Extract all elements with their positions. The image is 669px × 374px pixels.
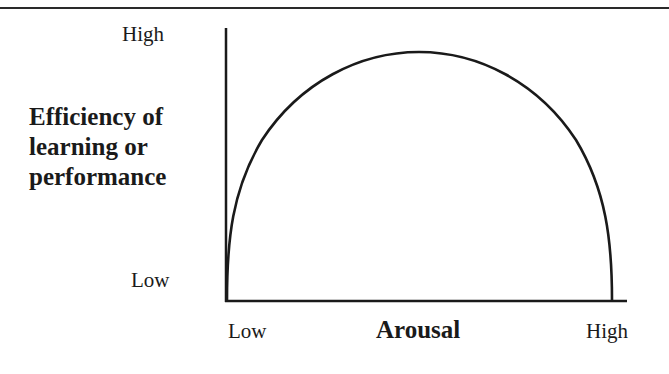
- inverted-u-curve: [227, 52, 612, 300]
- y-tick-low: Low: [131, 268, 170, 293]
- y-tick-high: High: [122, 22, 164, 47]
- y-axis-title: Efficiency of learning or performance: [29, 102, 219, 192]
- x-tick-low: Low: [228, 319, 267, 344]
- y-axis-title-line3: performance: [29, 162, 219, 192]
- x-axis-title: Arousal: [376, 316, 460, 344]
- x-tick-high: High: [586, 319, 628, 344]
- y-axis-title-line1: Efficiency of: [29, 102, 219, 132]
- y-axis-title-line2: learning or: [29, 132, 219, 162]
